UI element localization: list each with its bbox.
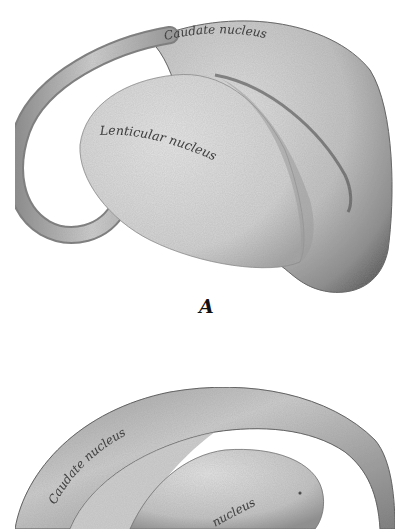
panel-b: Caudate nucleus nucleus (15, 387, 395, 529)
panel-a: Caudate nucleus Lenticular nucleus (15, 21, 392, 292)
anatomy-figure: Caudate nucleus Lenticular nucleus Cauda… (0, 0, 395, 529)
figure-letter-a: A (199, 295, 214, 317)
